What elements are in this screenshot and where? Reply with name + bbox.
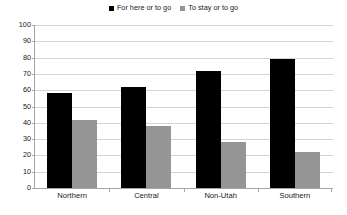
y-tick-label: 100 — [3, 21, 31, 29]
y-axis-labels: 100 90 80 70 60 50 40 30 20 10 0 — [0, 25, 31, 189]
legend-label: To stay or to go — [188, 4, 238, 12]
y-tick-label: 10 — [3, 168, 31, 176]
legend-label: For here or to go — [117, 4, 171, 12]
x-tick-label-central: Central — [109, 191, 183, 201]
legend-swatch-icon — [109, 6, 114, 11]
bar-non-utah-to-stay-or-to-go — [221, 142, 246, 188]
bars-layer — [35, 25, 332, 188]
bar-southern-for-here-or-to-go — [270, 59, 295, 188]
y-tick-label: 0 — [3, 184, 31, 192]
legend-swatch-icon — [180, 6, 185, 11]
x-tick-label-southern: Southern — [258, 191, 332, 201]
legend-entry-to-stay-or-to-go: To stay or to go — [180, 4, 238, 12]
bar-group-non-utah — [184, 25, 258, 188]
bar-non-utah-for-here-or-to-go — [196, 71, 221, 188]
x-tick-label-northern: Northern — [35, 191, 109, 201]
x-axis-labels: Northern Central Non-Utah Southern — [35, 191, 332, 205]
bar-group-northern — [35, 25, 109, 188]
bar-group-central — [109, 25, 183, 188]
bar-central-for-here-or-to-go — [121, 87, 146, 188]
chart-legend: For here or to go To stay or to go — [0, 1, 347, 15]
x-tick-label-non-utah: Non-Utah — [184, 191, 258, 201]
y-tick-label: 20 — [3, 151, 31, 159]
y-tick-label: 80 — [3, 54, 31, 62]
bar-northern-to-stay-or-to-go — [72, 120, 97, 188]
bar-northern-for-here-or-to-go — [47, 93, 72, 188]
y-tick-label: 50 — [3, 103, 31, 111]
y-tick-label: 90 — [3, 37, 31, 45]
bar-central-to-stay-or-to-go — [146, 126, 171, 188]
bar-group-southern — [258, 25, 332, 188]
y-tick-label: 40 — [3, 119, 31, 127]
bar-chart: For here or to go To stay or to go 100 9… — [0, 0, 347, 215]
y-tick-label: 60 — [3, 86, 31, 94]
y-tick-label: 30 — [3, 135, 31, 143]
y-tick-label: 70 — [3, 70, 31, 78]
bar-southern-to-stay-or-to-go — [295, 152, 320, 188]
legend-entry-for-here-or-to-go: For here or to go — [109, 4, 171, 12]
